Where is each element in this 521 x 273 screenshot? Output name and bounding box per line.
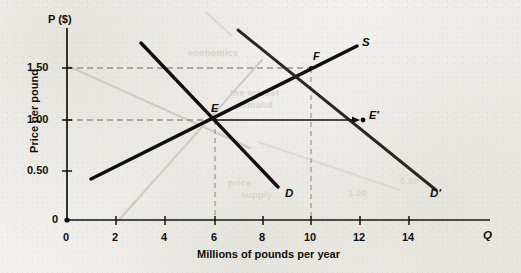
origin-dot bbox=[64, 217, 69, 222]
demand-shifted-curve bbox=[238, 30, 436, 190]
point-label-Eprime: E′ bbox=[369, 110, 379, 121]
x-tick-label-10: 10 bbox=[304, 232, 316, 243]
y-tick-label-100: 1.00 bbox=[27, 114, 48, 125]
point-label-F: F bbox=[313, 51, 320, 62]
supply-curve-label: S bbox=[362, 37, 370, 49]
x-axis-label: Millions of pounds per year bbox=[197, 249, 340, 260]
point-F-dot bbox=[309, 66, 313, 70]
x-tick-label-2: 2 bbox=[112, 232, 118, 243]
y-axis-title: P ($) bbox=[48, 14, 72, 25]
demand-curve-label: D bbox=[285, 188, 293, 200]
x-tick-label-4: 4 bbox=[161, 232, 167, 243]
x-tick-label-12: 12 bbox=[353, 232, 365, 243]
y-tick-label-0: 0 bbox=[52, 214, 58, 225]
point-E-dot bbox=[213, 118, 217, 122]
axes bbox=[62, 28, 490, 225]
y-tick-label-050: 0.50 bbox=[27, 165, 48, 176]
figure-canvas: economics the market demand 0.50 1.00 pr… bbox=[0, 0, 521, 273]
shift-arrow bbox=[216, 116, 360, 123]
y-tick-label-150: 1.50 bbox=[27, 62, 48, 73]
point-label-E: E bbox=[211, 103, 218, 114]
supply-curve bbox=[91, 46, 357, 179]
demand-shifted-curve-label: D′ bbox=[430, 188, 441, 200]
x-axis-symbol: Q bbox=[483, 230, 492, 242]
x-tick-label-8: 8 bbox=[259, 232, 265, 243]
point-Eprime-dot bbox=[361, 118, 366, 123]
x-tick-label-14: 14 bbox=[402, 232, 414, 243]
ghost-curves bbox=[68, 12, 400, 221]
x-tick-label-6: 6 bbox=[211, 232, 217, 243]
x-tick-label-0: 0 bbox=[63, 232, 69, 243]
guide-lines bbox=[67, 68, 311, 220]
